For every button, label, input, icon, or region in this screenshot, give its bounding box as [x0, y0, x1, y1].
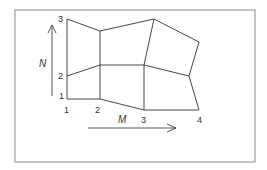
mesh-edge-m	[100, 99, 144, 110]
mesh-edge-m	[154, 19, 199, 42]
m-index-label: 1	[64, 105, 69, 115]
m-direction-arrow: M	[88, 114, 176, 132]
m-axis-label: M	[118, 114, 127, 125]
mesh-edge-m	[67, 65, 100, 76]
mesh-edge-m	[67, 19, 100, 31]
n-index-label: 1	[59, 91, 64, 101]
mesh-grid	[67, 19, 199, 110]
mesh-edge-n	[144, 19, 154, 65]
n-index-labels: 123	[58, 14, 64, 101]
m-index-label: 2	[95, 105, 100, 115]
m-index-label: 3	[141, 115, 146, 125]
mesh-edge-m	[100, 19, 154, 31]
mesh-edge-m	[144, 65, 189, 76]
m-index-label: 4	[197, 115, 202, 125]
diagram-frame	[15, 10, 255, 162]
mesh-edge-n	[189, 76, 199, 110]
mesh-diagram: N M 1234 123	[0, 0, 267, 170]
n-direction-arrow: N	[39, 25, 56, 96]
mesh-edge-n	[189, 42, 199, 76]
n-index-label: 2	[58, 71, 63, 81]
n-axis-label: N	[39, 58, 47, 69]
n-index-label: 3	[58, 14, 63, 24]
m-index-labels: 1234	[64, 105, 202, 125]
